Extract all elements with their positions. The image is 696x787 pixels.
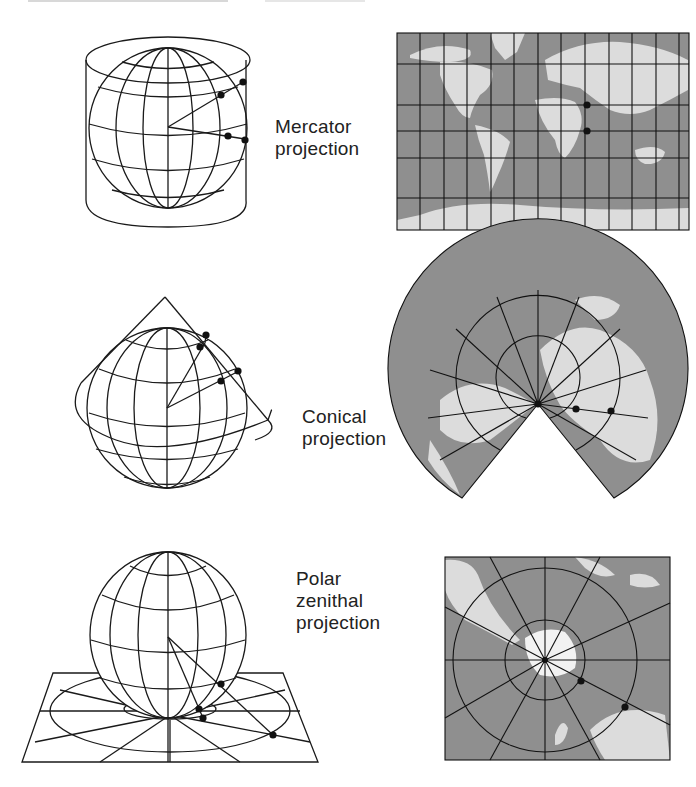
polar-map-center xyxy=(542,657,548,663)
polar-map-point xyxy=(621,703,628,710)
polar-zenithal-world-map xyxy=(445,557,670,760)
mercator-map-point xyxy=(583,101,590,108)
conical-world-map xyxy=(388,219,688,498)
conical-globe-diagram xyxy=(75,297,272,488)
polar-zenithal-globe-diagram xyxy=(22,552,318,762)
conical-map-apex xyxy=(535,401,542,408)
polar-map-point xyxy=(577,677,584,684)
conical-map-point xyxy=(607,407,614,414)
label-line: projection xyxy=(275,138,359,160)
label-line: projection xyxy=(296,612,380,634)
label-line: Polar xyxy=(296,568,380,590)
conical-label: Conical projection xyxy=(302,406,386,450)
label-line: Conical xyxy=(302,406,386,428)
mercator-globe-diagram xyxy=(86,37,250,227)
label-line: Mercator xyxy=(275,116,359,138)
conical-map-point xyxy=(572,405,579,412)
polar-zenithal-label: Polar zenithal projection xyxy=(296,568,380,634)
label-line: zenithal xyxy=(296,590,380,612)
conical-projection-points xyxy=(196,331,241,384)
mercator-world-map xyxy=(397,33,689,230)
mercator-map-point xyxy=(583,127,590,134)
label-line: projection xyxy=(302,428,386,450)
mercator-label: Mercator projection xyxy=(275,116,359,160)
